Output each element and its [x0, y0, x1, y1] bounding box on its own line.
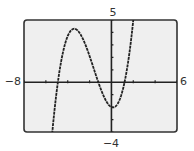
x-min-label: −8 [5, 75, 21, 88]
y-min-label: −4 [103, 137, 119, 150]
y-max-label: 5 [110, 6, 117, 19]
graphing-calculator-chart: 5 −4 −8 6 [0, 0, 194, 151]
x-max-label: 6 [180, 75, 187, 88]
plot-frame [24, 20, 177, 132]
